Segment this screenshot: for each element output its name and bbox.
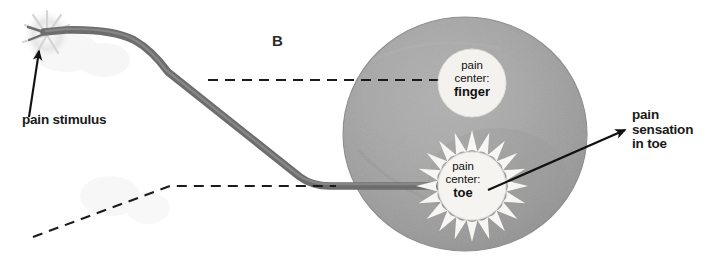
scan-artifacts xyxy=(32,32,170,224)
pain-sensation-label: painsensationin toe xyxy=(632,108,693,152)
stimulus-arrow xyxy=(29,51,39,117)
finger-line-3: finger xyxy=(427,85,517,100)
pain-pathway-diagram xyxy=(0,0,710,262)
finger-line-1: pain xyxy=(427,59,517,72)
pain-stimulus-label: pain stimulus xyxy=(22,113,106,128)
sensation-line-2: sensation xyxy=(632,122,693,137)
sensation-line-3: in toe xyxy=(632,136,667,151)
panel-letter-b: B xyxy=(272,33,283,49)
pain-center-toe-label: paincenter:toe xyxy=(418,160,508,200)
sensation-line-1: pain xyxy=(632,107,659,122)
pain-center-finger-label: paincenter:finger xyxy=(427,59,517,99)
finger-line-2: center: xyxy=(427,72,517,85)
dashed-pathway-lower xyxy=(33,186,336,237)
toe-line-2: center: xyxy=(418,173,508,186)
toe-line-1: pain xyxy=(418,160,508,173)
toe-line-3: toe xyxy=(418,186,508,201)
